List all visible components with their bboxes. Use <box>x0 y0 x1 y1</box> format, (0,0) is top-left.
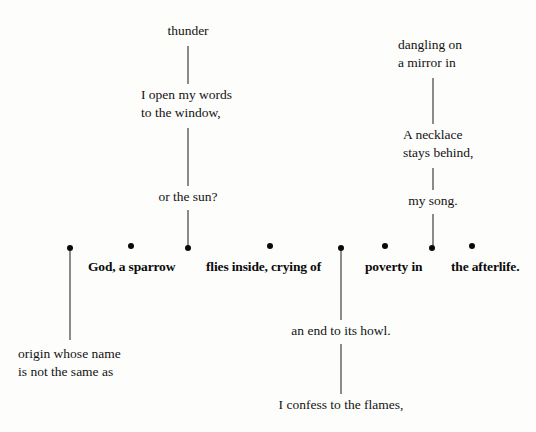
spine-label-flies-inside: flies inside, crying of <box>206 259 321 274</box>
spine-label-the-afterlife: the afterlife. <box>451 259 519 274</box>
spine-node-dot-2 <box>128 243 134 249</box>
branch-upper-left-or-the-sun: or the sun? <box>108 188 268 206</box>
spine-node-dot-4 <box>267 243 273 249</box>
stem-upper-right-middle <box>433 168 434 190</box>
stem-upper-left-bottom <box>188 210 189 248</box>
spine-node-dot-6 <box>382 243 388 249</box>
stem-upper-right-bottom <box>433 214 434 248</box>
poem-diagram-canvas: thunder I open my words to the window, o… <box>0 0 536 432</box>
spine-node-dot-7 <box>429 245 435 251</box>
spine-node-dot-8 <box>469 243 475 249</box>
branch-lower-center-howl: an end to its howl. <box>231 322 451 340</box>
spine-label-god-a-sparrow: God, a sparrow <box>88 259 175 274</box>
branch-upper-right-my-song: my song. <box>358 192 508 210</box>
stem-lower-center-top <box>341 250 342 320</box>
branch-upper-left-thunder: thunder <box>108 22 268 40</box>
branch-lower-left-origin: origin whose name is not the same as <box>18 345 218 380</box>
stem-lower-left <box>70 250 71 340</box>
spine-label-poverty-in: poverty in <box>365 259 422 274</box>
stem-upper-left-top <box>188 46 189 84</box>
spine-node-dot-3 <box>185 245 191 251</box>
branch-upper-left-open-words: I open my words to the window, <box>141 86 321 121</box>
stem-upper-right-top <box>433 78 434 124</box>
branch-lower-center-confess: I confess to the flames, <box>221 396 461 414</box>
stem-lower-center-bottom <box>341 344 342 394</box>
stem-upper-left-middle <box>188 128 189 186</box>
branch-upper-right-dangling: dangling on a mirror in <box>398 36 536 71</box>
branch-upper-right-necklace: A necklace stays behind, <box>403 126 536 161</box>
